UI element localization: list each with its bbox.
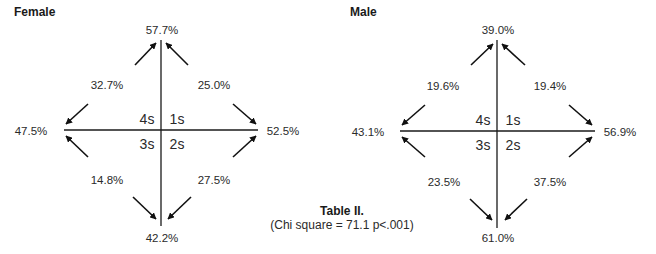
- female-quadrant-4s: 4s: [140, 111, 155, 127]
- female-bottom-value: 42.2%: [146, 232, 179, 244]
- table-caption: Table II. (Chi square = 71.1 p<.001): [270, 204, 413, 232]
- female-upper-left-value: 32.7%: [91, 79, 124, 91]
- female-axes: [64, 40, 258, 226]
- male-right-value: 56.9%: [604, 126, 637, 138]
- male-upper-left-value: 19.6%: [427, 80, 460, 92]
- female-quadrant-2s: 2s: [170, 136, 185, 152]
- female-lower-left-value: 14.8%: [91, 174, 124, 186]
- male-lower-right-value: 37.5%: [534, 176, 567, 188]
- female-left-value: 47.5%: [15, 125, 48, 137]
- male-quadrant-3s: 3s: [476, 137, 491, 153]
- male-bottom-value: 61.0%: [482, 232, 515, 244]
- female-quadrant-3s: 3s: [140, 136, 155, 152]
- male-quadrant-1s: 1s: [506, 112, 521, 128]
- female-right-value: 52.5%: [267, 125, 300, 137]
- female-top-value: 57.7%: [146, 24, 179, 36]
- female-lower-right-value: 27.5%: [198, 174, 231, 186]
- male-upper-right-value: 19.4%: [534, 80, 567, 92]
- caption-subtitle: (Chi square = 71.1 p<.001): [270, 218, 413, 232]
- male-quadrant-2s: 2s: [506, 137, 521, 153]
- caption-title: Table II.: [270, 204, 413, 218]
- male-lower-left-value: 23.5%: [428, 176, 461, 188]
- male-left-value: 43.1%: [352, 126, 385, 138]
- male-title: Male: [350, 5, 377, 19]
- male-top-value: 39.0%: [482, 24, 515, 36]
- male-quadrant-4s: 4s: [476, 112, 491, 128]
- male-axes: [400, 40, 595, 228]
- female-upper-right-value: 25.0%: [198, 79, 231, 91]
- female-quadrant-1s: 1s: [170, 111, 185, 127]
- female-title: Female: [14, 5, 55, 19]
